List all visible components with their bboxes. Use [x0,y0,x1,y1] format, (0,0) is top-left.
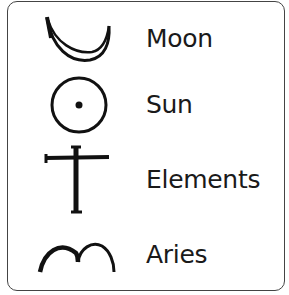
legend-label: Elements [146,165,260,194]
sun-circle-dot-icon [30,70,120,140]
legend-item-aries: Aries [0,238,289,295]
legend-label: Sun [146,90,193,119]
moon-crescent-icon [30,8,120,78]
legend-item-sun: Sun [0,70,289,140]
legend-item-elements: Elements [0,145,289,215]
legend-label: Aries [146,240,207,269]
aries-horns-icon [30,238,120,295]
elements-cross-icon [30,145,120,215]
legend-item-moon: Moon [0,8,289,78]
legend-label: Moon [146,24,213,53]
